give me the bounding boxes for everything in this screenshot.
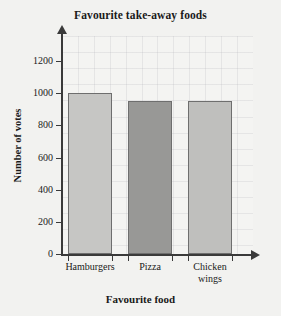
bar-chicken-wings[interactable] [188,101,232,254]
x-category-label-chicken-wings-line-2: wings [176,273,244,285]
x-category-label-pizza-line-1: Pizza [116,261,184,273]
y-tick-label-0: 0 [9,249,53,259]
y-tick-1200 [56,61,62,62]
x-category-label-hamburgers: Hamburgers [56,261,124,273]
y-tick-600 [56,158,62,159]
bar-pizza[interactable] [128,101,172,254]
y-axis-title: Number of votes [12,91,23,201]
bar-hamburgers[interactable] [68,93,112,254]
x-category-label-chicken-wings: Chicken wings [176,261,244,284]
y-tick-label-1200: 1200 [9,56,53,66]
x-axis-title: Favourite food [0,293,281,305]
x-category-label-hamburgers-line-1: Hamburgers [56,261,124,273]
y-tick-0 [56,254,62,255]
chart-title: Favourite take-away foods [0,9,281,21]
x-axis-arrow-icon [251,250,260,260]
y-tick-800 [56,125,62,126]
y-tick-200 [56,222,62,223]
y-tick-label-200: 200 [9,217,53,227]
y-axis-arrow-icon [57,25,67,34]
x-category-label-chicken-wings-line-1: Chicken [176,261,244,273]
chart-screenshot: Favourite take-away foods 0 200 400 600 … [0,0,281,316]
y-tick-400 [56,190,62,191]
y-tick-1000 [56,93,62,94]
x-axis-line [61,254,253,256]
x-category-label-pizza: Pizza [116,261,184,273]
